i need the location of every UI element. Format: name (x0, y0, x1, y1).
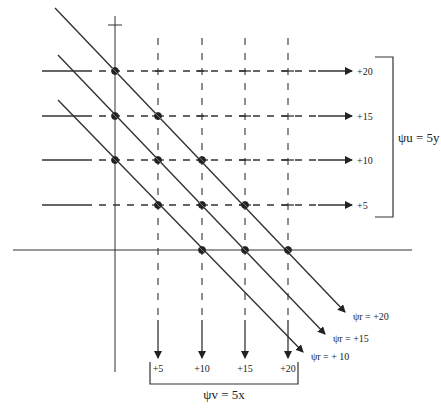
psi-v-bracket (150, 362, 298, 384)
flow-net-diagram: +20+15+10+5 +5+10+15+20 ψr = +20ψr = +15… (0, 0, 441, 413)
resultant-line-label: ψr = + 10 (311, 351, 349, 362)
v-line-label: +10 (194, 363, 210, 374)
psi-v-label: ψv = 5x (203, 387, 245, 402)
h-line-label: +20 (357, 66, 373, 77)
psi-u-bracket (375, 57, 393, 217)
h-line-label: +15 (357, 111, 373, 122)
h-line-label: +5 (357, 200, 368, 211)
v-line-label: +15 (237, 363, 253, 374)
vertical-stream-lines: +5+10+15+20 (153, 38, 296, 374)
resultant-line (58, 100, 303, 352)
v-line-label: +5 (153, 363, 164, 374)
psi-u-label: ψu = 5y (398, 130, 440, 145)
v-line-label: +20 (280, 363, 296, 374)
resultant-line-label: ψr = +20 (353, 311, 389, 322)
resultant-stream-lines: ψr = +20ψr = +15ψr = + 10 (55, 8, 389, 362)
horizontal-stream-lines: +20+15+10+5 (42, 66, 373, 211)
resultant-line (58, 55, 325, 334)
resultant-line-label: ψr = +15 (333, 333, 369, 344)
h-line-label: +10 (357, 155, 373, 166)
